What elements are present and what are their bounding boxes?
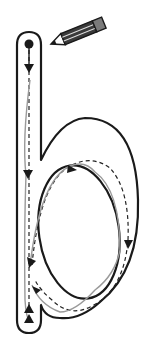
- arrow-up-icon: [24, 314, 34, 323]
- pencil-icon: [49, 17, 106, 49]
- letter-b-tracing-figure: [0, 0, 153, 350]
- arrow-down-icon: [24, 64, 34, 73]
- freehand-trace: [25, 80, 120, 322]
- guide-dashed-path: [29, 50, 128, 322]
- arrow-down-icon: [23, 170, 33, 179]
- start-dot-icon: [25, 40, 34, 49]
- arrow-down-icon: [124, 240, 133, 249]
